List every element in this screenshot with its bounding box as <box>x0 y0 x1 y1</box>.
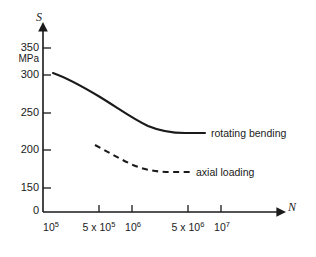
y-tick-label-150: 150 <box>6 182 39 193</box>
x-tick-exponent: 5 <box>55 220 59 229</box>
y-tick-label-0: 0 <box>6 205 39 216</box>
legend-label-axial-loading: axial loading <box>196 167 254 178</box>
x-tick-mantissa: 5 x 10 <box>83 221 112 233</box>
y-tick-label-250: 250 <box>6 107 39 118</box>
y-tick-label-350: 350 <box>6 42 39 53</box>
x-axis-title: N <box>288 201 296 213</box>
x-tick-exponent: 6 <box>137 220 141 229</box>
x-tick-mantissa: 5 x 10 <box>172 221 201 233</box>
y-tick-label-300: 300 <box>6 69 39 80</box>
series-rotating-bending-curve <box>53 73 205 133</box>
x-tick-exponent: 7 <box>226 220 230 229</box>
x-tick-label-1e5: 105 <box>31 222 71 233</box>
x-tick-mantissa: 10 <box>43 221 55 233</box>
x-tick-label-1e7: 107 <box>204 222 240 233</box>
x-tick-mantissa: 10 <box>214 221 226 233</box>
x-tick-mantissa: 10 <box>125 221 137 233</box>
fatigue-sn-chart: S N 350 MPa 300 250 200 150 0 105 5 x 10… <box>0 0 316 257</box>
x-axis-ticks <box>99 205 221 212</box>
legend-label-rotating-bending: rotating bending <box>211 128 286 139</box>
y-axis-ticks <box>43 48 51 188</box>
y-tick-label-200: 200 <box>6 144 39 155</box>
y-axis-unit-label: MPa <box>6 54 39 64</box>
x-tick-label-1e6: 106 <box>115 222 151 233</box>
series-axial-loading-curve <box>95 145 190 172</box>
y-axis-title: S <box>36 11 42 23</box>
